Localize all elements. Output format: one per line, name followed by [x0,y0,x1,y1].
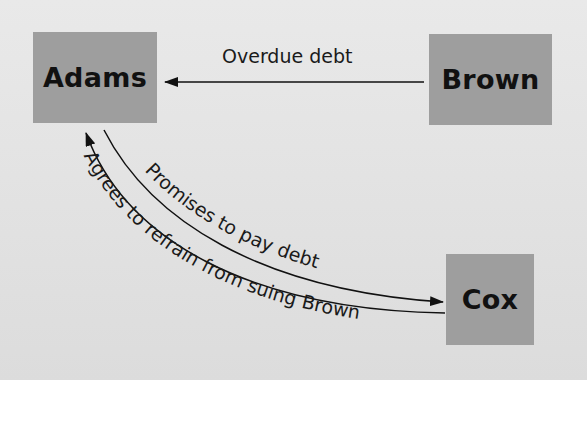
edge-label-agrees-text: Agrees to refrain from suing Brown [80,147,362,323]
edge-label-agrees: Agrees to refrain from suing Brown [80,147,362,323]
arrow-promises-to-pay [104,130,443,302]
diagram-arrows: Promises to pay debt Agrees to refrain f… [0,0,587,429]
